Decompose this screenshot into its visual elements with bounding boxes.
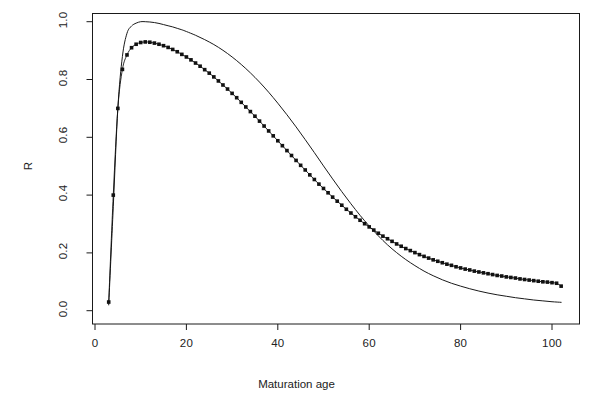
data-point-marker xyxy=(285,149,289,153)
data-point-marker xyxy=(189,58,193,62)
data-point-marker xyxy=(450,264,454,268)
x-axis-title: Maturation age xyxy=(0,378,593,390)
data-point-marker xyxy=(262,124,266,128)
series-dotted-curve xyxy=(107,40,563,304)
data-point-marker xyxy=(445,262,449,266)
data-point-marker xyxy=(198,64,202,68)
data-point-marker xyxy=(166,46,170,50)
data-point-marker xyxy=(303,168,307,172)
data-point-marker xyxy=(235,96,239,100)
y-tick-label: 0.4 xyxy=(57,173,69,213)
data-point-marker xyxy=(454,265,458,269)
data-point-marker xyxy=(349,211,353,215)
data-point-marker xyxy=(372,228,376,232)
data-point-marker xyxy=(340,203,344,207)
data-point-marker xyxy=(203,68,207,72)
data-point-marker xyxy=(377,231,381,235)
x-tick-label: 40 xyxy=(248,337,308,349)
data-point-marker xyxy=(459,266,463,270)
data-series-layer xyxy=(107,22,563,305)
data-point-marker xyxy=(207,71,211,75)
data-point-marker xyxy=(559,284,563,288)
y-axis-title: R xyxy=(22,146,34,186)
data-point-marker xyxy=(536,279,540,283)
data-point-marker xyxy=(139,41,143,45)
data-point-marker xyxy=(226,87,230,91)
data-point-marker xyxy=(134,42,138,46)
data-point-marker xyxy=(249,110,253,114)
data-point-marker xyxy=(317,182,321,186)
y-axis-ticks xyxy=(87,22,93,311)
y-tick-label: 0.0 xyxy=(57,289,69,329)
x-tick-label: 100 xyxy=(522,337,582,349)
data-point-marker xyxy=(335,199,339,203)
data-point-marker xyxy=(514,276,518,280)
data-point-marker xyxy=(290,154,294,158)
x-axis-ticks xyxy=(95,324,552,330)
data-point-marker xyxy=(541,280,545,284)
data-point-marker xyxy=(386,237,390,241)
data-point-marker xyxy=(331,195,335,199)
data-point-marker xyxy=(121,68,125,72)
data-point-marker xyxy=(427,256,431,260)
data-point-marker xyxy=(116,107,120,111)
data-point-marker xyxy=(399,244,403,248)
data-point-marker xyxy=(157,42,161,46)
data-point-marker xyxy=(345,207,349,211)
data-point-marker xyxy=(194,61,198,65)
data-point-marker xyxy=(354,215,358,219)
data-point-marker xyxy=(500,274,504,278)
data-point-marker xyxy=(308,173,312,177)
data-point-marker xyxy=(244,105,248,109)
data-point-marker xyxy=(171,48,175,52)
data-point-marker xyxy=(267,129,271,133)
y-tick-label: 0.6 xyxy=(57,115,69,155)
data-point-marker xyxy=(230,92,234,96)
data-point-marker xyxy=(390,240,394,244)
data-point-marker xyxy=(111,193,115,197)
data-point-marker xyxy=(185,55,189,59)
plot-canvas xyxy=(0,0,593,412)
data-point-marker xyxy=(532,279,536,283)
data-point-marker xyxy=(363,222,367,226)
data-point-marker xyxy=(523,278,527,282)
data-point-marker xyxy=(463,267,467,271)
x-tick-label: 60 xyxy=(339,337,399,349)
x-tick-label: 20 xyxy=(156,337,216,349)
data-point-marker xyxy=(381,234,385,238)
data-point-marker xyxy=(436,259,440,263)
data-point-marker xyxy=(473,269,477,273)
data-point-marker xyxy=(322,187,326,191)
data-point-marker xyxy=(468,268,472,272)
data-point-marker xyxy=(518,277,522,281)
data-point-marker xyxy=(221,83,225,87)
data-point-marker xyxy=(153,41,157,45)
data-point-marker xyxy=(395,242,399,246)
data-point-marker xyxy=(217,79,221,83)
data-point-marker xyxy=(550,281,554,285)
data-point-marker xyxy=(162,44,166,48)
data-point-marker xyxy=(313,178,317,182)
data-point-marker xyxy=(509,276,513,280)
x-tick-label: 0 xyxy=(65,337,125,349)
data-point-marker xyxy=(271,134,275,138)
data-point-marker xyxy=(555,281,559,285)
data-point-marker xyxy=(175,50,179,54)
data-point-marker xyxy=(276,139,280,143)
y-tick-label: 0.2 xyxy=(57,231,69,271)
series-line xyxy=(109,22,561,305)
data-point-marker xyxy=(125,53,129,57)
data-point-marker xyxy=(431,258,435,262)
data-point-marker xyxy=(326,191,330,195)
data-point-marker xyxy=(367,225,371,229)
data-point-marker xyxy=(413,251,417,255)
data-point-marker xyxy=(477,270,481,274)
data-point-marker xyxy=(546,280,550,284)
data-point-marker xyxy=(281,144,285,148)
data-point-marker xyxy=(409,249,413,253)
data-point-marker xyxy=(294,159,298,163)
data-point-marker xyxy=(505,275,509,279)
y-tick-label: 1.0 xyxy=(57,0,69,40)
data-point-marker xyxy=(491,273,495,277)
x-tick-label: 80 xyxy=(431,337,491,349)
